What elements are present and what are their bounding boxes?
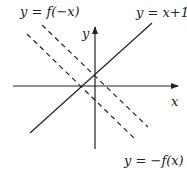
label-y-eq-f-neg-x: y = f(−x) (20, 5, 80, 18)
diagram-graphics (0, 0, 187, 177)
coordinate-diagram: y = f(−x) y = x+1 y x y = −f(x) (0, 0, 187, 177)
line-y-eq-x-plus-1 (30, 23, 152, 133)
y-axis-label: y (82, 27, 89, 40)
label-y-eq-x-plus-1: y = x+1 (136, 6, 187, 19)
x-axis-label: x (171, 95, 178, 108)
label-y-eq-neg-f-x: y = −f(x) (124, 154, 184, 167)
